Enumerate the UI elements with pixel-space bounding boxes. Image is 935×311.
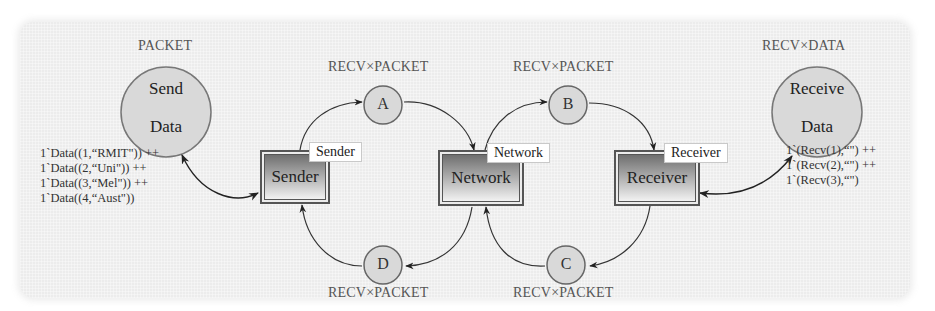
place-d-label: D (364, 255, 402, 273)
colour-set-send-data: PACKET (138, 38, 192, 54)
petri-net-diagram: PACKET RECV×DATA RECV×PACKET RECV×PACKET… (0, 0, 935, 311)
arc-b-receiver (589, 103, 654, 150)
marking-receive-data-token-1: 1`(Recv(1),“") ++ (786, 143, 876, 158)
colour-set-d: RECV×PACKET (328, 285, 429, 301)
marking-receive-data-token-3: 1`(Recv(3),“") (786, 173, 876, 188)
colour-set-b: RECV×PACKET (513, 59, 614, 75)
arc-senddata-sender (182, 155, 258, 198)
place-send-data-name-line1: Send (121, 79, 211, 99)
subpage-tag-receiver: Receiver (664, 143, 728, 163)
marking-send-data: 1`Data((1,“RMIT")) ++ 1`Data((2,“Uni")) … (40, 146, 159, 206)
arc-network-d (406, 207, 472, 266)
subpage-tag-network: Network (487, 143, 550, 163)
marking-send-data-token-2: 1`Data((2,“Uni")) ++ (40, 161, 159, 176)
place-send-data-name-line2: Data (121, 117, 211, 137)
marking-send-data-token-1: 1`Data((1,“RMIT")) ++ (40, 146, 159, 161)
place-receive-data-name-line1: Receive (772, 79, 862, 99)
place-a-label: A (364, 95, 402, 113)
arc-receiver-c (590, 206, 650, 266)
colour-set-c: RECV×PACKET (513, 285, 614, 301)
colour-set-a: RECV×PACKET (328, 59, 429, 75)
marking-receive-data-token-2: 1`(Recv(2),“") ++ (786, 158, 876, 173)
marking-send-data-token-3: 1`Data((3,“Mel")) ++ (40, 176, 159, 191)
arc-a-network (404, 102, 474, 150)
marking-receive-data: 1`(Recv(1),“") ++ 1`(Recv(2),“") ++ 1`(R… (786, 143, 876, 188)
place-c-label: C (547, 255, 585, 273)
place-b-label: B (549, 95, 587, 113)
arc-c-network (486, 207, 545, 266)
marking-send-data-token-4: 1`Data((4,“Aust")) (40, 191, 159, 206)
arc-d-sender (302, 205, 362, 266)
subpage-tag-sender: Sender (309, 142, 362, 162)
place-receive-data-name-line2: Data (772, 117, 862, 137)
colour-set-receive-data: RECV×DATA (762, 38, 845, 54)
